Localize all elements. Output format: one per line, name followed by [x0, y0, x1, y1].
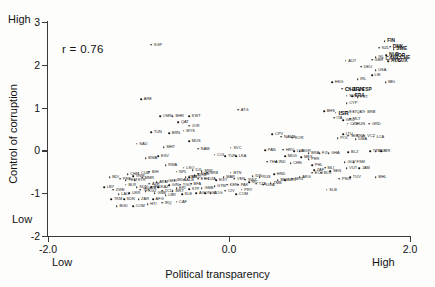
data-point-label: CIV: [228, 189, 235, 193]
data-point-label: LIE: [375, 73, 381, 77]
data-point-label: MHL: [378, 175, 386, 179]
data-point-label: RUS: [262, 175, 270, 179]
data-point: [331, 81, 333, 83]
data-point: [284, 156, 286, 158]
data-point-label: EGY: [219, 178, 227, 182]
data-point: [353, 162, 355, 164]
data-point: [201, 187, 203, 189]
data-point-label: AFG: [156, 197, 164, 201]
data-point: [214, 186, 216, 188]
plot-area: SGPFINDNKNZLSWENLDNORCHECANISLLUXAUSGBRA…: [48, 22, 410, 236]
data-point: [197, 148, 199, 150]
data-point: [293, 150, 295, 152]
data-point: [140, 189, 142, 191]
data-point: [346, 168, 348, 170]
data-point: [136, 143, 138, 145]
data-point-label: OMN: [163, 114, 172, 118]
data-point: [348, 135, 350, 137]
data-point-label: KIR: [384, 149, 391, 153]
data-point-label: IND: [279, 160, 286, 164]
data-point-label: DEU: [364, 65, 372, 69]
data-point-label: BHS: [327, 109, 335, 113]
data-point: [345, 60, 347, 62]
data-point: [313, 169, 315, 171]
data-point: [270, 182, 272, 184]
data-point: [176, 201, 178, 203]
data-point: [183, 130, 185, 132]
data-point: [149, 171, 151, 173]
data-point: [301, 156, 303, 158]
data-point: [158, 156, 160, 158]
data-point: [364, 111, 366, 113]
data-point: [120, 178, 122, 180]
data-point: [109, 176, 111, 178]
data-point: [225, 190, 227, 192]
data-point-label: COM: [239, 192, 248, 196]
data-point: [188, 188, 190, 190]
data-point: [138, 172, 140, 174]
data-point: [174, 180, 176, 182]
data-point-label: MMR: [145, 176, 154, 180]
data-point: [136, 186, 138, 188]
data-point: [223, 176, 225, 178]
data-point: [380, 150, 382, 152]
data-point: [147, 204, 149, 206]
data-point: [244, 179, 246, 181]
data-point: [299, 176, 301, 178]
data-point-label: LBR: [168, 193, 176, 197]
x-tick-mark: [410, 237, 411, 242]
data-point-label: PAN: [268, 148, 276, 152]
data-point-label: STP: [192, 187, 200, 191]
data-point: [375, 176, 377, 178]
data-point-label: GRD: [372, 122, 381, 126]
data-point-label: BGD: [119, 204, 128, 208]
data-point: [140, 98, 142, 100]
data-point-label: ATG: [241, 108, 249, 112]
data-point: [235, 156, 237, 158]
data-point: [368, 123, 370, 125]
data-point: [326, 189, 328, 191]
data-point: [150, 132, 152, 134]
data-point: [188, 176, 190, 178]
y-tick-label: 3: [0, 17, 40, 27]
y-tick-mark: [42, 108, 47, 109]
data-point-label: GHA: [331, 151, 340, 155]
data-point-label: GBR: [375, 58, 384, 62]
data-point-label: SRB: [210, 171, 218, 175]
data-point-label: GEO: [168, 179, 177, 183]
data-point: [141, 177, 143, 179]
data-point: [194, 174, 196, 176]
data-point: [275, 161, 277, 163]
data-point: [138, 198, 140, 200]
y-tick-mark: [42, 150, 47, 151]
data-point: [159, 115, 161, 117]
data-point-label: KOR: [295, 136, 304, 140]
data-point: [349, 118, 351, 120]
data-point-label: PRT: [360, 95, 368, 99]
data-point: [192, 169, 194, 171]
data-point: [308, 158, 310, 160]
data-point: [235, 193, 237, 195]
data-point: [292, 137, 294, 139]
data-point: [230, 172, 232, 174]
data-point-label: AUT: [348, 59, 356, 63]
y-tick-label: -1: [0, 188, 40, 198]
data-point-label: SVC: [233, 146, 241, 150]
y-tick-label: 2: [0, 60, 40, 70]
data-point: [237, 109, 239, 111]
data-point-label: TKM: [114, 197, 122, 201]
data-point-label: ZAR: [141, 197, 149, 201]
data-point-label: SAU: [139, 142, 147, 146]
data-point: [353, 123, 355, 125]
data-point-label: HTI: [150, 202, 156, 206]
y-tick-label: 1: [0, 103, 40, 113]
data-point: [168, 185, 170, 187]
data-point: [161, 202, 163, 204]
data-point: [385, 81, 387, 83]
data-point: [176, 187, 178, 189]
data-point: [346, 111, 348, 113]
data-point: [375, 150, 377, 152]
data-point: [357, 79, 359, 81]
data-point-label: KWT: [192, 114, 201, 118]
data-point-label: BWA: [148, 156, 157, 160]
